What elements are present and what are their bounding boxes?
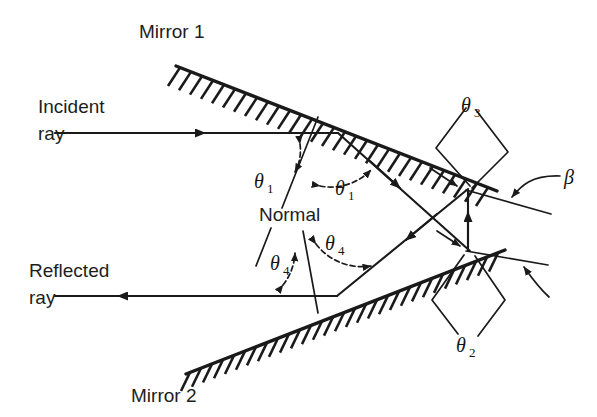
- ray-upper-to-m2-arrow: [406, 214, 437, 240]
- theta4-left-label: θ 4: [270, 252, 290, 278]
- normal-mirror-1-lower: [256, 228, 271, 266]
- theta4-left-subscript: 4: [283, 263, 290, 278]
- theta1-left-label: θ 1: [254, 170, 274, 196]
- theta4-right-subscript: 4: [338, 243, 345, 258]
- reflected-ray-label-line1: Reflected: [29, 260, 109, 281]
- theta2-label: θ 2: [456, 334, 476, 360]
- ray-diagram-svg: Mirror 1 Mirror 2 Incident ray Reflected…: [0, 0, 597, 417]
- theta2-symbol: θ: [456, 334, 466, 356]
- beta-symbol: β: [563, 166, 574, 189]
- text-labels: Mirror 1 Mirror 2 Incident ray Reflected…: [29, 21, 574, 406]
- ray-m1-to-m2-lower: [338, 133, 470, 251]
- theta3-bracket-right: [472, 110, 508, 188]
- theta1-right-subscript: 1: [348, 188, 355, 203]
- reflected-ray-label-line2: ray: [29, 287, 56, 308]
- theta4-left-symbol: θ: [270, 252, 280, 274]
- beta-lower-leader-arrow: [524, 267, 549, 297]
- theta2-subscript: 2: [469, 345, 476, 360]
- theta4-right-symbol: θ: [325, 232, 335, 254]
- ray-m1-to-m2-arrow: [370, 161, 400, 188]
- mirror-1-label: Mirror 1: [139, 21, 204, 42]
- leaders: [432, 108, 560, 336]
- theta3-subscript: 3: [474, 105, 481, 120]
- theta4-right-label: θ 4: [325, 232, 345, 258]
- theta1-left-subscript: 1: [267, 181, 274, 196]
- mirror-2-label: Mirror 2: [131, 385, 196, 406]
- theta1-right-label: θ 1: [335, 177, 355, 203]
- mirror-1: [168, 66, 497, 206]
- theta3-symbol: θ: [461, 94, 471, 116]
- theta1-right-arc: [320, 170, 371, 187]
- theta1-right-symbol: θ: [335, 177, 345, 199]
- mirror-2: [181, 250, 505, 391]
- incident-ray-label-line2: ray: [38, 123, 65, 144]
- theta1-left-symbol: θ: [254, 170, 264, 192]
- mirror-1-surface: [176, 66, 497, 191]
- incident-ray-label-line1: Incident: [38, 96, 105, 117]
- normal-mirror-1-upper: [282, 117, 318, 208]
- beta-leader-arrow: [512, 176, 560, 197]
- figure-canvas: Mirror 1 Mirror 2 Incident ray Reflected…: [0, 0, 597, 417]
- theta3-label: θ 3: [461, 94, 481, 120]
- normal-label: Normal: [259, 204, 320, 225]
- beta-extension-lower: [466, 251, 548, 265]
- mirror-1-hatching: [168, 68, 488, 206]
